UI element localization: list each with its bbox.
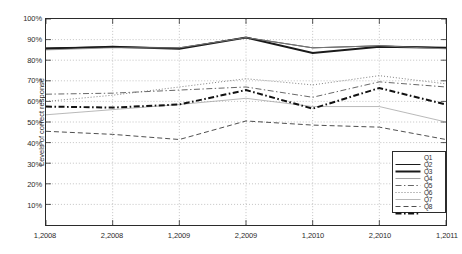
legend-item-Q8[interactable]: Q8 [395, 203, 443, 210]
legend-swatch-Q4 [395, 175, 421, 182]
legend-swatch-Q5 [395, 182, 421, 189]
legend-item-Q4[interactable]: Q4 [395, 175, 443, 182]
legend-item-Q2[interactable]: Q2 [395, 161, 443, 168]
legend-item-Q6[interactable]: Q6 [395, 189, 443, 196]
legend-swatch-Q2 [395, 161, 421, 168]
legend-label-Q6: Q6 [424, 189, 432, 196]
x-tick-2-2010: 2,2010 [369, 231, 391, 240]
legend-label-Q4: Q4 [424, 175, 432, 182]
y-tick-60%: 60% [12, 97, 42, 106]
series-Q5 [46, 76, 446, 102]
legend-label-Q8: Q8 [424, 203, 432, 210]
legend-swatch-Q7 [395, 196, 421, 203]
y-tick-40%: 40% [12, 139, 42, 148]
legend-swatch-Q3 [395, 168, 421, 175]
y-tick-80%: 80% [12, 56, 42, 65]
x-tick-1-2009: 1,2009 [168, 231, 190, 240]
series-Q2 [46, 38, 446, 53]
legend-item-Q5[interactable]: Q5 [395, 182, 443, 189]
x-tick-1-2011: 1,2011 [436, 231, 458, 240]
legend-item-Q7[interactable]: Q7 [395, 196, 443, 203]
y-tick-20%: 20% [12, 180, 42, 189]
series-Q7 [46, 121, 446, 140]
legend-swatch-Q6 [395, 189, 421, 196]
x-tick-2-2009: 2,2009 [235, 231, 257, 240]
figure: Levels of correct response 10%20%30%40%5… [0, 0, 462, 254]
plot-area [45, 18, 447, 226]
legend-label-Q7: Q7 [424, 196, 432, 203]
series-Q6 [46, 98, 446, 122]
y-tick-30%: 30% [12, 160, 42, 169]
legend-swatch-Q1 [395, 154, 421, 161]
legend-swatch-Q8 [395, 203, 421, 210]
legend-label-Q2: Q2 [424, 161, 432, 168]
x-tick-1-2008: 1,2008 [34, 231, 56, 240]
legend-label-Q5: Q5 [424, 182, 432, 189]
y-tick-100%: 100% [12, 14, 42, 23]
legend-item-Q1[interactable]: Q1 [395, 154, 443, 161]
series-Q3 [46, 38, 446, 50]
series-lines [46, 19, 446, 225]
legend-item-Q3[interactable]: Q3 [395, 168, 443, 175]
x-tick-2-2008: 2,2008 [101, 231, 123, 240]
y-tick-70%: 70% [12, 76, 42, 85]
y-tick-90%: 90% [12, 35, 42, 44]
legend-label-Q1: Q1 [424, 154, 432, 161]
x-tick-1-2010: 1,2010 [302, 231, 324, 240]
y-tick-50%: 50% [12, 118, 42, 127]
legend[interactable]: Q1Q2Q3Q4Q5Q6Q7Q8 [392, 151, 446, 213]
y-tick-10%: 10% [12, 201, 42, 210]
legend-label-Q3: Q3 [424, 168, 432, 175]
